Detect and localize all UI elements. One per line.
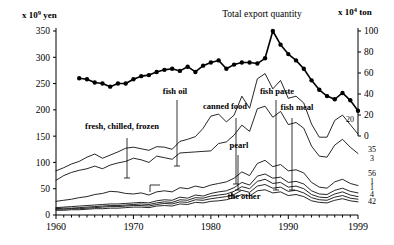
data-point-marker — [317, 88, 321, 92]
right-tick-label: 100 — [364, 26, 379, 36]
chart-title: Total export quantity — [222, 9, 302, 19]
data-point-marker — [139, 74, 143, 78]
series-annotation-label: fish meal — [281, 102, 314, 112]
data-point-marker — [216, 58, 220, 62]
left-tick-label: 350 — [36, 26, 51, 36]
data-point-marker — [224, 67, 228, 71]
export-quantity-chart: 050100150200250300350 020406080100 19601… — [0, 0, 394, 245]
right-tick-label: 60 — [364, 68, 374, 78]
left-tick-label: 150 — [36, 132, 51, 142]
chart-figure: 050100150200250300350 020406080100 19601… — [0, 0, 394, 245]
end-value-label: 42 — [368, 197, 376, 206]
data-point-marker — [232, 62, 236, 66]
data-point-marker — [255, 61, 259, 65]
left-tick-label: 100 — [36, 158, 51, 168]
data-point-marker — [100, 81, 104, 85]
end-value-label: 3 — [370, 154, 374, 163]
x-tick-label: 1980 — [201, 221, 221, 232]
x-tick-label: 1970 — [123, 221, 143, 232]
series-annotation-label: fish oil — [163, 86, 188, 96]
x-tick-label: 1999 — [348, 221, 368, 232]
data-point-marker — [170, 67, 174, 71]
data-point-marker — [162, 68, 166, 72]
right-tick-label: 40 — [364, 89, 374, 99]
right-tick-label: 20 — [364, 110, 374, 120]
x-tick-label: 1990 — [278, 221, 298, 232]
left-tick-label: 50 — [41, 184, 51, 194]
data-point-marker — [247, 60, 251, 64]
left-tick-label: 0 — [45, 210, 50, 220]
data-point-marker — [286, 52, 290, 56]
data-point-marker — [93, 80, 97, 84]
data-point-marker — [154, 70, 158, 74]
data-point-marker — [85, 77, 89, 81]
end-value-label: 20 — [346, 115, 354, 124]
data-point-marker — [309, 78, 313, 82]
data-point-marker — [271, 29, 275, 33]
series-annotation-label: canned food — [203, 101, 247, 111]
end-value-label: 35 — [368, 145, 376, 154]
left-tick-label: 200 — [36, 105, 51, 115]
data-point-marker — [123, 81, 127, 85]
data-point-marker — [325, 94, 329, 98]
data-point-marker — [294, 58, 298, 62]
data-point-marker — [147, 73, 151, 77]
data-point-marker — [178, 69, 182, 73]
data-point-marker — [108, 84, 112, 88]
data-point-marker — [77, 76, 81, 80]
series-annotation-label: fresh, chilled, frozen — [85, 121, 159, 131]
data-point-marker — [209, 60, 213, 64]
series-annotation-label: pearl — [230, 140, 250, 150]
data-point-marker — [302, 67, 306, 71]
data-point-marker — [131, 77, 135, 81]
data-point-marker — [278, 42, 282, 46]
left-tick-label: 250 — [36, 79, 51, 89]
data-point-marker — [193, 70, 197, 74]
data-point-marker — [201, 63, 205, 67]
data-point-marker — [240, 60, 244, 64]
right-tick-label: 0 — [364, 131, 369, 141]
series-annotation-label: fish paste — [260, 86, 294, 96]
data-point-marker — [348, 98, 352, 102]
data-point-marker — [263, 56, 267, 60]
data-point-marker — [185, 65, 189, 69]
left-tick-label: 300 — [36, 53, 51, 63]
data-point-marker — [340, 91, 344, 95]
x-tick-label: 1960 — [46, 221, 66, 232]
data-point-marker — [116, 81, 120, 85]
right-tick-label: 80 — [364, 47, 374, 57]
data-point-marker — [333, 97, 337, 101]
data-point-marker — [356, 109, 360, 113]
